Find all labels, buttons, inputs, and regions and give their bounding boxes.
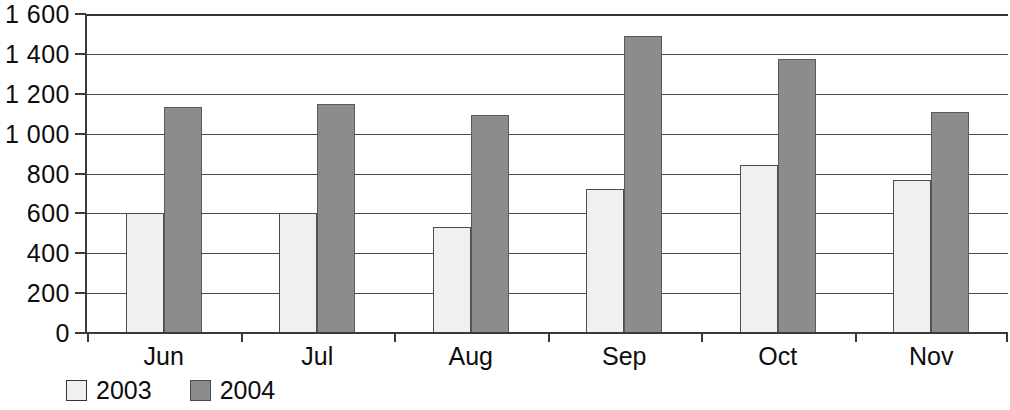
- y-axis-tick-mark: [75, 133, 86, 135]
- y-axis-tick-mark: [75, 212, 86, 214]
- bar-jul-2003: [279, 213, 317, 333]
- legend-label: 2004: [220, 378, 276, 403]
- y-axis-tick-mark: [75, 173, 86, 175]
- bar-jun-2003: [126, 213, 164, 333]
- x-axis-labels: JunJulAugSepOctNov: [87, 341, 1008, 373]
- legend-item-2003[interactable]: 2003: [66, 378, 152, 403]
- bar-chart: 02004006008001 0001 2001 4001 600 JunJul…: [0, 0, 1010, 410]
- x-axis-tick-label: Sep: [602, 341, 646, 371]
- y-axis-tick-mark: [75, 252, 86, 254]
- y-axis-labels: 02004006008001 0001 2001 4001 600: [0, 0, 70, 345]
- y-axis-tick-label: 600: [0, 201, 70, 226]
- y-axis-tick-label: 200: [0, 281, 70, 306]
- chart-legend: 2003 2004: [66, 378, 275, 403]
- y-axis-tick-mark: [75, 332, 86, 334]
- x-axis-tick-label: Oct: [758, 341, 797, 371]
- bar-nov-2003: [893, 180, 931, 333]
- bar-aug-2004: [471, 115, 509, 333]
- light-square-swatch-icon: [66, 380, 87, 401]
- y-axis-tick-mark: [75, 53, 86, 55]
- bar-jul-2004: [317, 104, 355, 333]
- y-axis-tick-label: 1 600: [0, 2, 70, 27]
- y-axis-tick-label: 1 200: [0, 81, 70, 106]
- y-axis-tick-label: 1 400: [0, 41, 70, 66]
- x-axis-tick-label: Aug: [449, 341, 493, 371]
- y-axis-tick-label: 400: [0, 241, 70, 266]
- x-axis-tick-label: Jul: [301, 341, 333, 371]
- x-axis-tick-label: Jun: [144, 341, 184, 371]
- y-axis-tick-label: 0: [0, 321, 70, 346]
- bars-layer: [87, 14, 1008, 333]
- legend-item-2004[interactable]: 2004: [190, 378, 276, 403]
- bar-aug-2003: [433, 227, 471, 333]
- y-axis-tick-mark: [75, 93, 86, 95]
- bar-oct-2004: [778, 59, 816, 333]
- bar-nov-2004: [931, 112, 969, 333]
- x-axis-tick-label: Nov: [909, 341, 953, 371]
- dark-square-swatch-icon: [190, 380, 211, 401]
- legend-label: 2003: [96, 378, 152, 403]
- bar-sep-2003: [586, 189, 624, 333]
- bar-sep-2004: [624, 36, 662, 333]
- bar-oct-2003: [740, 165, 778, 333]
- bar-jun-2004: [164, 107, 202, 333]
- y-axis-tick-mark: [75, 13, 86, 15]
- y-axis-tick-label: 1 000: [0, 121, 70, 146]
- y-axis-tick-mark: [75, 292, 86, 294]
- y-axis-tick-label: 800: [0, 161, 70, 186]
